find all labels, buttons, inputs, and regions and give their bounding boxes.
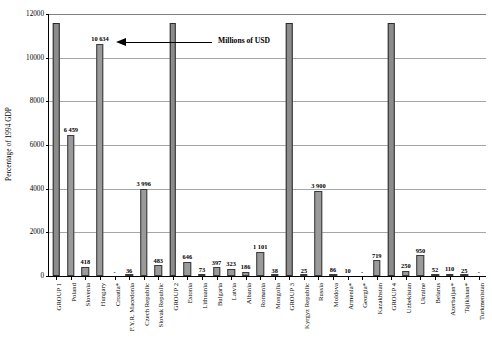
x-axis-label: Turkmenistan (470, 281, 485, 349)
x-axis-tick-mark (479, 276, 480, 280)
bar-value-label: 52 (432, 266, 438, 273)
x-axis-label-text: Slovenia (84, 283, 91, 306)
bar-slot: 250 (399, 14, 414, 276)
data-bar (82, 267, 90, 276)
x-axis-tick-mark (362, 276, 363, 280)
x-axis-label-text: Czech Republic (143, 283, 150, 326)
data-bar (140, 189, 148, 276)
group-bar (53, 23, 60, 276)
x-axis-label-text: GROUP 2 (172, 283, 179, 310)
x-axis-tick-mark (100, 276, 101, 280)
x-axis-label-text: Latvia (230, 283, 237, 300)
bar-slot: 6 459 (64, 14, 79, 276)
x-axis-tick-mark (450, 276, 451, 280)
bar-value-label: 36 (126, 267, 132, 274)
bar-slot: 25 (457, 14, 472, 276)
bar-value-label: 719 (372, 252, 382, 259)
bar-value-label: 110 (445, 265, 454, 272)
x-axis-label-text: Kyrgyz Republic (303, 283, 310, 329)
bar-slot: 719 (369, 14, 384, 276)
x-axis-label-text: Estonia (186, 283, 193, 303)
bar-slot: 73 (195, 14, 210, 276)
bar-value-label: 86 (330, 266, 336, 273)
x-axis-tick-mark (173, 276, 174, 280)
bar-value-label: 38 (272, 267, 278, 274)
x-axis-label: Estonia (179, 281, 194, 349)
y-axis-tick-label: 6000 (30, 141, 44, 149)
bar-slot: 10 634 (93, 14, 108, 276)
bars: 6 45941810 634-363 996483646733973231861… (49, 14, 486, 276)
x-axis-label: GROUP 3 (281, 281, 296, 349)
bar-value-label: 1 101 (253, 243, 267, 250)
x-axis-tick-mark (406, 276, 407, 280)
x-axis-label-text: Croatia* (114, 283, 121, 306)
bar-value-label: 10 634 (91, 35, 109, 42)
x-axis-label: Georgia* (354, 281, 369, 349)
y-axis-tick-label: 2000 (30, 228, 44, 236)
x-axis-label-text: Russia (317, 283, 324, 301)
x-axis-label-text: Uzbekistan (405, 283, 412, 313)
x-axis-label: Moldova (325, 281, 340, 349)
x-axis-label-text: Tajikistan* (463, 283, 470, 313)
x-axis-label-text: Turkmenistan (478, 283, 485, 320)
x-axis-tick-mark (304, 276, 305, 280)
bar-value-label: 186 (241, 263, 251, 270)
x-axis-tick-mark (246, 276, 247, 280)
x-axis-label-text: GROUP 4 (390, 283, 397, 310)
data-bar (154, 265, 162, 276)
x-axis-label-text: Moldova (332, 283, 339, 307)
x-axis-tick-mark (158, 276, 159, 280)
annotation-label: Millions of USD (218, 36, 270, 45)
x-axis-tick-mark (85, 276, 86, 280)
x-axis-tick-mark (333, 276, 334, 280)
x-axis-label-text: Bulgaria (216, 283, 223, 306)
annotation-millions-of-usd: Millions of USD (112, 36, 312, 50)
bar-slot (384, 14, 399, 276)
x-axis-label: Slovak Republic (150, 281, 165, 349)
x-axis-label: Russia (310, 281, 325, 349)
bar-slot: 38 (268, 14, 283, 276)
y-axis-title-text: Percentage of 1994 GDP (5, 107, 13, 181)
x-axis-tick-mark (391, 276, 392, 280)
bar-value-label: - (478, 268, 480, 275)
bar-slot: 418 (78, 14, 93, 276)
bar-value-label: 323 (226, 260, 236, 267)
bar-value-label: 397 (212, 259, 222, 266)
x-axis-label: Latvia (223, 281, 238, 349)
x-axis-label: Poland (63, 281, 78, 349)
bar-value-label: 250 (401, 262, 411, 269)
y-axis-title: Percentage of 1994 GDP (0, 0, 18, 288)
bar-value-label: 10 (344, 267, 350, 274)
data-bar (213, 267, 221, 276)
bar-slot: 52 (428, 14, 443, 276)
bar-value-label: 950 (416, 247, 426, 254)
plot-area: 020004000600080001000012000 6 45941810 6… (48, 14, 486, 277)
x-axis-tick-mark (56, 276, 57, 280)
x-axis-label: Azerbaijan* (441, 281, 456, 349)
x-axis-label-text: Lithuania (201, 283, 208, 309)
x-axis-label: Belarus (427, 281, 442, 349)
x-axis-label-text: Georgia* (361, 283, 368, 308)
group-bar (388, 23, 395, 276)
bar-slot: 397 (209, 14, 224, 276)
x-axis-labels: GROUP 1PolandSloveniaHungaryCroatia*F.Y.… (48, 281, 485, 349)
x-axis-tick-mark (275, 276, 276, 280)
x-axis-label: Armenia* (339, 281, 354, 349)
data-bar (227, 269, 235, 276)
bar-value-label: 25 (461, 267, 467, 274)
x-axis-label: GROUP 4 (383, 281, 398, 349)
data-bar (96, 44, 104, 276)
x-axis-label: Kazakhstan (368, 281, 383, 349)
x-axis-label: Croatia* (106, 281, 121, 349)
x-axis-tick-mark (202, 276, 203, 280)
y-axis-tick-label: 0 (40, 272, 44, 280)
x-axis-tick-mark (464, 276, 465, 280)
data-bar (417, 255, 425, 276)
data-bar (67, 135, 75, 276)
y-axis-tick-mark (46, 276, 49, 277)
bar-slot: 3 996 (136, 14, 151, 276)
bar-slot: 483 (151, 14, 166, 276)
x-axis-tick-mark (71, 276, 72, 280)
x-axis-label: GROUP 2 (165, 281, 180, 349)
x-axis-label-text: GROUP 1 (55, 283, 62, 310)
